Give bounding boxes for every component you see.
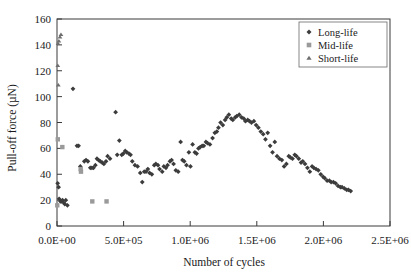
- data-point: [138, 171, 143, 176]
- x-tick-label: 0.0E+00: [38, 234, 76, 246]
- data-point: [79, 169, 83, 173]
- legend-marker-square: [307, 43, 312, 48]
- data-point: [171, 162, 176, 167]
- x-tick-label: 1.5E+06: [238, 234, 276, 246]
- data-point: [59, 32, 64, 36]
- data-point: [188, 164, 193, 169]
- data-point: [272, 140, 277, 145]
- y-axis-title: Pull-off force (µN): [6, 84, 19, 172]
- y-tick-label: 160: [35, 13, 52, 25]
- legend-label: Short-life: [318, 53, 359, 64]
- data-point: [113, 110, 118, 115]
- y-tick-label: 100: [35, 91, 52, 103]
- data-point: [190, 142, 195, 147]
- x-axis-tick-labels: 0.0E+005.0E+051.0E+061.5E+062.0E+062.5E+…: [38, 234, 409, 246]
- data-point: [71, 86, 76, 91]
- data-point: [270, 150, 275, 155]
- scatter-plot: 020406080100120140160 0.0E+005.0E+051.0E…: [0, 0, 411, 272]
- data-point: [130, 159, 135, 164]
- y-tick-label: 120: [35, 65, 52, 77]
- x-tick-label: 2.0E+06: [305, 234, 343, 246]
- data-point: [117, 138, 122, 143]
- y-axis-ticks: [57, 19, 62, 226]
- data-point: [55, 203, 59, 207]
- data-point: [56, 137, 60, 141]
- data-point: [263, 137, 268, 142]
- y-tick-label: 20: [40, 194, 52, 206]
- chart-legend: Long-lifeMid-lifeShort-life: [299, 22, 387, 67]
- data-point: [55, 63, 60, 67]
- x-tick-label: 1.0E+06: [171, 234, 209, 246]
- data-point: [210, 136, 215, 141]
- y-tick-label: 60: [40, 142, 52, 154]
- chart-figure: 020406080100120140160 0.0E+005.0E+051.0E…: [0, 0, 411, 272]
- series-long-life: [55, 86, 353, 207]
- data-point: [178, 140, 183, 145]
- data-point: [60, 145, 64, 149]
- data-point: [268, 143, 273, 148]
- y-tick-label: 80: [40, 117, 52, 129]
- x-tick-label: 5.0E+05: [105, 234, 143, 246]
- data-point: [55, 181, 60, 186]
- y-axis-tick-labels: 020406080100120140160: [35, 13, 52, 232]
- series-mid-life: [55, 137, 109, 207]
- y-tick-label: 140: [35, 39, 52, 51]
- legend-label: Mid-life: [318, 40, 353, 51]
- y-tick-label: 0: [46, 220, 52, 232]
- x-axis-ticks: [57, 221, 390, 226]
- data-point: [305, 165, 310, 170]
- x-axis-title: Number of cycles: [183, 256, 265, 269]
- data-point: [265, 130, 270, 135]
- data-point: [307, 169, 312, 174]
- data-point: [140, 180, 145, 185]
- x-tick-label: 2.5E+06: [371, 234, 409, 246]
- legend-label: Long-life: [318, 27, 358, 38]
- y-tick-label: 40: [40, 168, 52, 180]
- data-point: [115, 152, 120, 157]
- data-point: [184, 163, 189, 168]
- data-point: [186, 150, 191, 155]
- data-point: [104, 199, 108, 203]
- data-point: [90, 199, 94, 203]
